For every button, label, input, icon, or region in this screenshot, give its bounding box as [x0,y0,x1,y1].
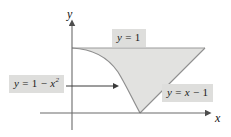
x-axis-label: x [215,112,220,124]
label-parabola-exponent: 2 [55,76,59,84]
graph-figure: y x y = 1 y = 1 − x2 y = x − 1 [0,0,231,137]
label-line-equation: y = x − 1 [162,84,213,102]
label-parabola-equation: y = 1 − x2 [9,75,64,93]
label-y-equals-1: y = 1 [112,29,146,47]
label-y-equals-1-rhs: = 1 [122,31,140,43]
plot-canvas [0,0,231,137]
shaded-region [72,48,205,113]
label-line-mid: = [172,86,185,98]
y-axis-label: y [67,8,72,20]
label-line-rhs: − 1 [190,86,208,98]
label-parabola-mid: = 1 − [19,77,50,89]
